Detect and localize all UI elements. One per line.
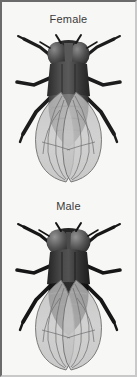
fly-illustration-male <box>6 218 131 373</box>
specimen-panel-female: Female <box>2 2 135 190</box>
fly-illustration-female <box>6 30 131 188</box>
specimen-panel-male: Male <box>2 190 135 375</box>
specimen-label-female: Female <box>2 13 135 25</box>
figure-inner-frame: Female <box>2 2 135 375</box>
fly-wings-male <box>36 280 102 370</box>
figure-panel: Female <box>0 0 137 377</box>
fly-wings-female <box>36 92 102 182</box>
specimen-label-male: Male <box>2 200 135 212</box>
